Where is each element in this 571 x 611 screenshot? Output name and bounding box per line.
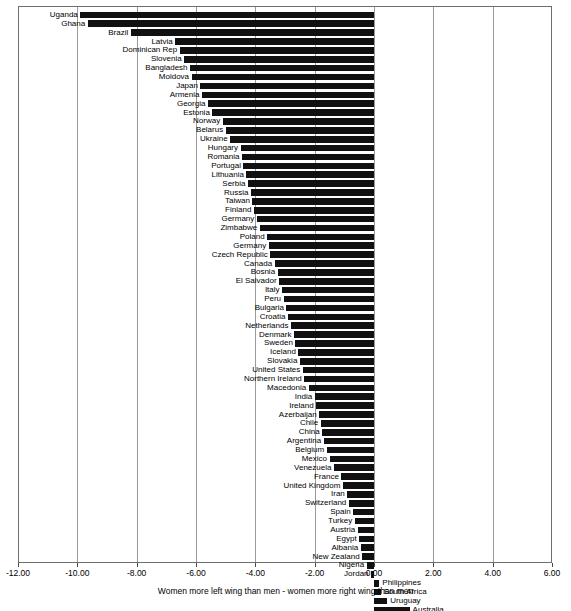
- bar-row: Mexico: [0, 455, 571, 464]
- bar-category-label: Uganda: [50, 10, 78, 19]
- bar: [192, 74, 374, 81]
- bar: [304, 376, 374, 383]
- tick-mark: [196, 563, 197, 567]
- bar: [319, 411, 374, 418]
- bar: [334, 464, 374, 471]
- bar-category-label: Sweden: [264, 338, 293, 347]
- bar-row: Armenia: [0, 90, 571, 99]
- tick-mark: [374, 563, 375, 567]
- tick-mark: [77, 563, 78, 567]
- x-tick-label: 4.00: [484, 568, 501, 578]
- bar: [349, 500, 374, 507]
- bar-row: Bosnia: [0, 268, 571, 277]
- bar-category-label: Bosnia: [251, 267, 275, 276]
- bar: [355, 518, 374, 525]
- bar: [270, 251, 374, 258]
- bar: [288, 314, 374, 321]
- bar: [300, 358, 374, 365]
- bar: [374, 607, 410, 611]
- bar-row: Japan: [0, 82, 571, 91]
- x-tick-label: -2.00: [305, 568, 324, 578]
- bar: [184, 56, 374, 63]
- bar-row: Italy: [0, 286, 571, 295]
- bar-category-label: Argentina: [287, 436, 321, 445]
- bar-category-label: Lithuania: [211, 170, 243, 179]
- bar-category-label: Romania: [207, 152, 239, 161]
- bar-row: Belgium: [0, 446, 571, 455]
- bar-row: Macedonia: [0, 383, 571, 392]
- bars-layer: UgandaGhanaBrazilLatviaDominican RepSlov…: [0, 0, 571, 611]
- x-tick-label: 2.00: [425, 568, 442, 578]
- bar-row: El Salvador: [0, 277, 571, 286]
- bar: [202, 92, 374, 99]
- bar-category-label: Serbia: [222, 179, 245, 188]
- bar-row: Germany: [0, 215, 571, 224]
- bar: [358, 527, 374, 534]
- bar: [321, 420, 374, 427]
- bar-row: Finland: [0, 206, 571, 215]
- tick-mark: [255, 563, 256, 567]
- bar-row: United Kingdom: [0, 481, 571, 490]
- bar-row: Serbia: [0, 179, 571, 188]
- bar-category-label: Brazil: [108, 28, 128, 37]
- bar-row: Austria: [0, 526, 571, 535]
- bar-chart: UgandaGhanaBrazilLatviaDominican RepSlov…: [0, 0, 571, 611]
- bar: [254, 207, 374, 214]
- bar-row: Bulgaria: [0, 304, 571, 313]
- bar-row: Brazil: [0, 28, 571, 37]
- bar: [223, 118, 374, 125]
- bar-row: Portugal: [0, 161, 571, 170]
- bar-category-label: Poland: [240, 232, 265, 241]
- bar-row: Uganda: [0, 11, 571, 20]
- bar-category-label: Estonia: [183, 108, 210, 117]
- bar-row: Iran: [0, 490, 571, 499]
- bar: [260, 225, 374, 232]
- bar: [286, 305, 374, 312]
- bar-category-label: New Zealand: [313, 552, 360, 561]
- bar-row: Bangladesh: [0, 64, 571, 73]
- bar: [278, 269, 374, 276]
- x-tick-label: -4.00: [246, 568, 265, 578]
- bar-row: Hungary: [0, 144, 571, 153]
- bar: [294, 331, 374, 338]
- bar-category-label: Moldova: [159, 72, 189, 81]
- x-tick-label: -6.00: [186, 568, 205, 578]
- bar: [315, 393, 374, 400]
- bar: [242, 154, 374, 161]
- bar-category-label: Georgia: [177, 99, 205, 108]
- bar: [190, 65, 374, 72]
- bar-row: Czech Republic: [0, 250, 571, 259]
- bar-category-label: Zimbabwe: [220, 223, 257, 232]
- bar: [267, 234, 374, 241]
- x-tick-label: -12.00: [6, 568, 30, 578]
- tick-mark: [493, 563, 494, 567]
- bar: [295, 340, 374, 347]
- bar: [330, 456, 375, 463]
- bar: [248, 180, 374, 187]
- bar: [347, 491, 374, 498]
- bar-row: Azerbaijan: [0, 410, 571, 419]
- bar-category-label: Germany: [233, 241, 266, 250]
- bar: [298, 349, 374, 356]
- bar-category-label: Norway: [193, 116, 220, 125]
- bar: [324, 438, 374, 445]
- bar: [80, 12, 374, 19]
- bar: [241, 145, 375, 152]
- bar-category-label: India: [295, 392, 312, 401]
- bar: [175, 38, 374, 45]
- bar-category-label: Portugal: [211, 161, 241, 170]
- bar-category-label: Czech Republic: [212, 250, 268, 259]
- tick-mark: [315, 563, 316, 567]
- bar-category-label: China: [299, 427, 320, 436]
- bar: [374, 598, 387, 605]
- bar-category-label: Bulgaria: [255, 303, 284, 312]
- bar-category-label: Macedonia: [267, 383, 306, 392]
- bar-row: Romania: [0, 153, 571, 162]
- bar-category-label: Turkey: [328, 516, 352, 525]
- bar-category-label: Switzerland: [305, 498, 346, 507]
- bar-category-label: Hungary: [208, 143, 238, 152]
- bar-row: Uruguay: [0, 597, 571, 606]
- bar-category-label: Armenia: [170, 90, 200, 99]
- bar-row: Lithuania: [0, 170, 571, 179]
- bar-row: Russia: [0, 188, 571, 197]
